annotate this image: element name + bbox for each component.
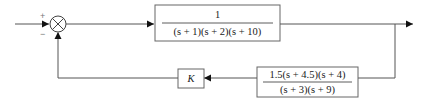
gain-label: K (186, 73, 195, 84)
minus-sign: − (40, 29, 45, 39)
forward-transfer-function-block: 1 (s + 1)(s + 2)(s + 10) (155, 5, 280, 41)
feedback-denominator: (s + 3)(s + 9) (280, 84, 336, 96)
feedback-arrowhead (55, 32, 62, 39)
block-diagram: + − 1 (s + 1)(s + 2)(s + 10) 1.5(s + 4.5… (0, 0, 430, 102)
gain-k-block: K (178, 69, 204, 88)
feedback-numerator: 1.5(s + 4.5)(s + 4) (269, 69, 346, 81)
feedback-transfer-function-block: 1.5(s + 4.5)(s + 4) (s + 3)(s + 9) (257, 67, 358, 97)
forward-denominator: (s + 1)(s + 2)(s + 10) (174, 26, 262, 38)
feedback-takeoff-line (358, 24, 395, 78)
summing-junction (50, 16, 66, 32)
plus-sign: + (40, 11, 45, 21)
forward-numerator: 1 (215, 9, 220, 20)
